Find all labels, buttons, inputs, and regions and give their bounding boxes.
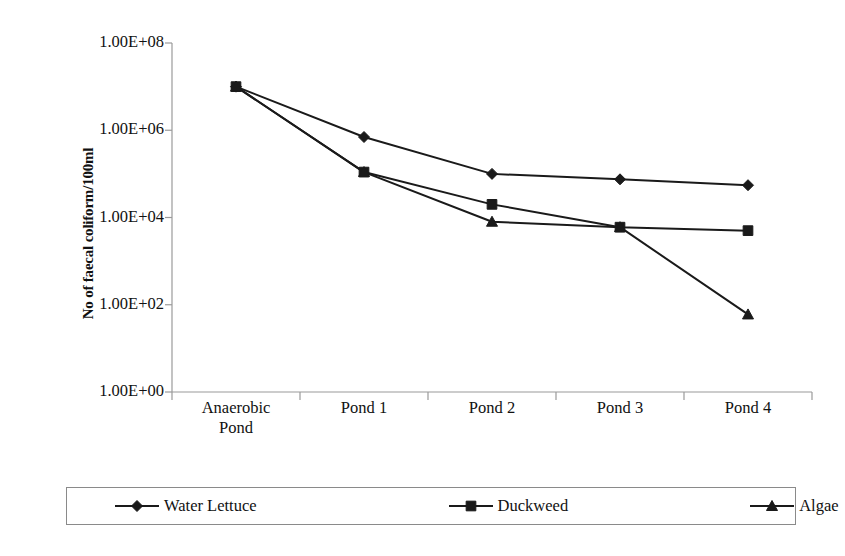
legend-label: Water Lettuce [164, 497, 257, 515]
x-tick-label-line1: Anaerobic [202, 398, 271, 417]
data-point-marker-diamond [359, 132, 370, 143]
legend-entries: Water LettuceDuckweedAlgae [67, 488, 795, 524]
data-point-marker-square [743, 226, 753, 236]
legend-entry-water-lettuce[interactable]: Water Lettuce [113, 497, 257, 515]
x-tick-label-line2: Pond [156, 418, 316, 438]
x-tick-label-line1: Pond 3 [597, 398, 643, 417]
data-point-marker-diamond [615, 174, 626, 185]
x-axis-tick-labels: AnaerobicPondPond 1Pond 2Pond 3Pond 4 [172, 398, 812, 458]
x-tick-label-line1: Pond 4 [725, 398, 771, 417]
x-axis-tick-label: Pond 4 [668, 398, 828, 418]
faecal-coliform-line-chart: No of faecal coliform/100ml 1.00E+081.00… [0, 0, 845, 556]
data-point-marker-diamond [743, 180, 754, 191]
x-tick-label-line1: Pond 1 [341, 398, 387, 417]
legend-marker-square-icon [447, 498, 495, 514]
plot-area [0, 0, 845, 556]
data-point-marker-square [487, 200, 497, 210]
legend-entry-algae[interactable]: Algae [748, 497, 838, 515]
data-series-group [231, 81, 754, 319]
legend-label: Duckweed [498, 497, 569, 515]
legend-marker-diamond-icon [113, 498, 161, 514]
series-duckweed [231, 82, 753, 236]
data-point-marker-triangle [743, 309, 754, 319]
legend-label: Algae [799, 497, 838, 515]
legend-entry-duckweed[interactable]: Duckweed [447, 497, 569, 515]
legend-marker-triangle-icon [748, 498, 796, 514]
data-point-marker-diamond [487, 168, 498, 179]
x-tick-label-line1: Pond 2 [469, 398, 515, 417]
legend: Water LettuceDuckweedAlgae [66, 487, 796, 525]
